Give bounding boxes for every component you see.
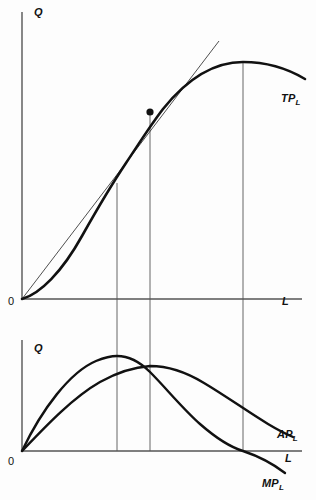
tp-y-axis-label: Q [34,6,43,18]
figure-canvas [0,0,316,500]
total-product-curve [22,62,305,299]
apmp-origin-label: 0 [8,455,14,467]
apmp-y-axis-label: Q [34,342,43,354]
marginal-product-curve-label: MPL [262,477,284,492]
total-product-curve-label: TPL [281,92,301,107]
tp-label-subscript: L [295,98,300,107]
ap-label-subscript: L [293,434,298,443]
tp-origin-label: 0 [8,295,14,307]
mp-label-subscript: L [279,483,284,492]
total-product-panel [22,12,305,299]
marginal-product-curve [22,356,285,473]
average-marginal-product-panel [22,340,302,473]
tangency-point-marker [146,108,153,115]
tp-x-axis-label: L [282,295,289,307]
production-function-figure: Q 0 L TPL Q 0 L APL MPL [0,0,316,500]
average-product-curve-label: APL [277,428,298,443]
reference-lines [117,62,243,451]
apmp-x-axis-label: L [285,452,292,464]
